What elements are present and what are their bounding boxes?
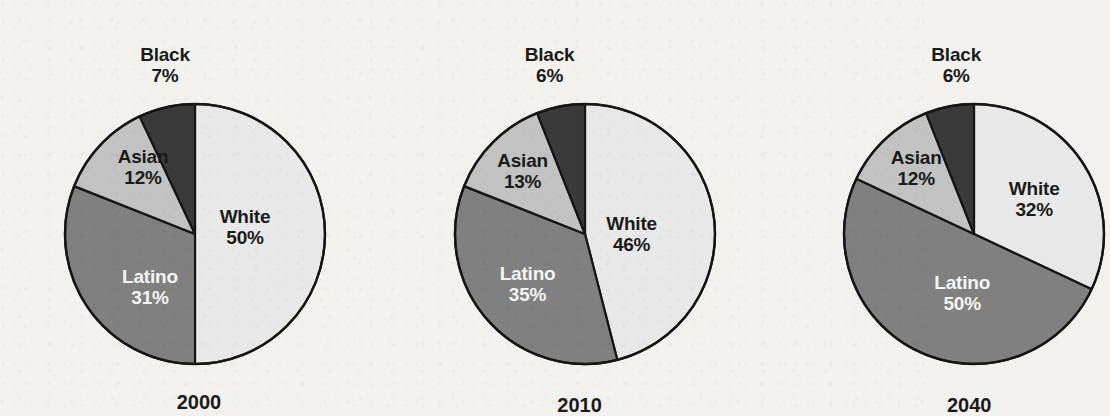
slice-label-black-name: Black — [525, 44, 575, 65]
slice-label-white-2000: White 50% — [220, 206, 271, 249]
slice-label-white-pct: 50% — [220, 227, 271, 248]
slice-label-black-pct: 6% — [525, 65, 575, 86]
slice-label-white-pct: 32% — [1009, 199, 1060, 220]
slice-label-black-2040: Black 6% — [931, 44, 981, 87]
slice-label-black-pct: 6% — [931, 65, 981, 86]
slice-label-white-pct: 46% — [606, 234, 657, 255]
slice-label-asian-name: Asian — [497, 150, 548, 171]
pie-chart-2010: Black 6% White 46% Asian 13% Latino 35% … — [430, 16, 740, 416]
pie-graphic-2010 — [430, 16, 740, 416]
slice-label-asian-pct: 12% — [891, 168, 942, 189]
slice-label-white-2040: White 32% — [1009, 178, 1060, 221]
slice-label-black-name: Black — [931, 44, 981, 65]
pie-graphic-2000 — [40, 16, 350, 416]
year-label-2010: 2010 — [557, 394, 602, 416]
slice-label-white-2010: White 46% — [606, 213, 657, 256]
slice-label-asian-2040: Asian 12% — [891, 147, 942, 190]
slice-label-asian-pct: 13% — [497, 171, 548, 192]
slice-label-asian-2010: Asian 13% — [497, 150, 548, 193]
slice-label-black-2000: Black 7% — [140, 44, 190, 87]
slice-label-latino-name: Latino — [934, 272, 990, 293]
slice-label-asian-2000: Asian 12% — [118, 146, 169, 189]
slice-label-latino-2010: Latino 35% — [500, 263, 556, 306]
pie-chart-2000: Black 7% White 50% Asian 12% Latino 31% … — [40, 16, 350, 416]
slice-label-asian-name: Asian — [891, 147, 942, 168]
slice-label-latino-name: Latino — [500, 263, 556, 284]
slice-label-asian-name: Asian — [118, 146, 169, 167]
pie-chart-2040: Black 6% White 32% Asian 12% Latino 50% … — [819, 16, 1110, 416]
year-label-2000: 2000 — [177, 391, 222, 414]
slice-label-black-pct: 7% — [140, 65, 190, 86]
year-label-2040: 2040 — [947, 394, 992, 416]
slice-label-asian-pct: 12% — [118, 167, 169, 188]
slice-label-black-name: Black — [140, 44, 190, 65]
pie-svg-2000 — [40, 16, 350, 416]
slice-label-white-name: White — [606, 213, 657, 234]
slice-label-white-name: White — [220, 206, 271, 227]
slice-label-latino-pct: 35% — [500, 284, 556, 305]
slice-label-latino-2040: Latino 50% — [934, 272, 990, 315]
slice-label-latino-pct: 50% — [934, 293, 990, 314]
slice-label-latino-pct: 31% — [122, 287, 178, 308]
slice-label-black-2010: Black 6% — [525, 44, 575, 87]
slice-label-latino-name: Latino — [122, 266, 178, 287]
slice-label-latino-2000: Latino 31% — [122, 266, 178, 309]
slice-label-white-name: White — [1009, 178, 1060, 199]
pie-svg-2010 — [430, 16, 740, 416]
